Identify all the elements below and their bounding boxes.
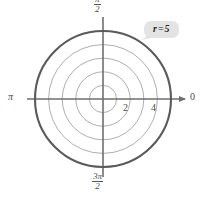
fraction-3pi-over-2: 3π 2 — [92, 172, 103, 192]
radial-tick-label-2: 2 — [123, 103, 128, 113]
fraction-pi-over-2: π 2 — [94, 0, 101, 15]
horizontal-axis-arrowhead — [179, 96, 186, 102]
angle-label-zero: 0 — [190, 92, 195, 102]
fraction-denominator: 2 — [92, 181, 103, 191]
fraction-numerator: 3π — [92, 172, 103, 181]
angle-label-pi: π — [8, 92, 13, 102]
fraction-denominator: 2 — [94, 4, 101, 14]
callout-equals: = — [157, 23, 165, 34]
equation-callout: r=5 — [144, 21, 179, 38]
angle-label-3pi-over-2: 3π 2 — [92, 172, 103, 192]
callout-value: 5 — [165, 23, 170, 34]
polar-graph-figure: π 2 3π 2 π 0 2 4 r=5 — [0, 0, 205, 202]
angle-label-pi-over-2: π 2 — [94, 0, 101, 15]
radial-tick-label-4: 4 — [151, 103, 156, 113]
